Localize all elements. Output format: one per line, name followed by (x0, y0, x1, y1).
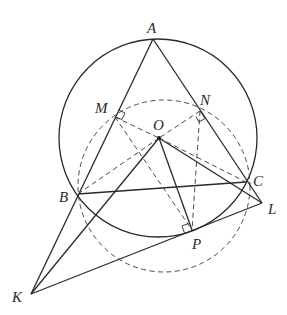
line-O-L (159, 138, 262, 203)
dash-B-O (78, 138, 159, 194)
dash-N-O (159, 111, 200, 138)
line-A-K (31, 39, 153, 294)
center-dot-O (157, 136, 161, 140)
line-K-L (31, 203, 262, 294)
label-N: N (199, 92, 211, 108)
label-O: O (153, 117, 164, 133)
label-A: A (146, 20, 157, 36)
label-K: K (11, 289, 23, 305)
right-angle-P (182, 224, 189, 234)
label-C: C (253, 173, 264, 189)
dash-N-P (192, 111, 200, 230)
dashed-circle (78, 100, 250, 272)
geometry-diagram: A M N O B C L P K (0, 0, 287, 315)
label-B: B (59, 189, 68, 205)
label-P: P (191, 236, 201, 252)
line-A-L (153, 39, 262, 203)
label-L: L (267, 201, 276, 217)
label-M: M (94, 100, 109, 116)
line-O-P (159, 138, 192, 230)
dash-M-P (115, 117, 192, 230)
line-B-C (78, 182, 246, 194)
